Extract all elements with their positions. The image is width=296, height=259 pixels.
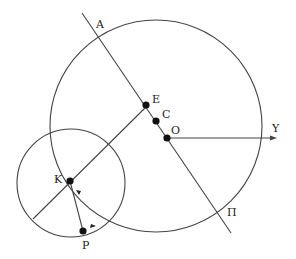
point-c: [152, 117, 159, 124]
label-c: C: [162, 108, 170, 121]
label-a: A: [95, 18, 105, 31]
label-k: K: [54, 173, 63, 186]
arrow-marker-p-icon: [90, 224, 96, 228]
label-p: P: [82, 239, 90, 252]
large-circle: [50, 20, 262, 232]
point-p: [79, 227, 86, 234]
line-k-p: [70, 181, 83, 231]
label-pi: Π: [227, 206, 237, 219]
arrowhead-y-icon: [270, 136, 277, 141]
label-e: E: [152, 93, 160, 106]
label-y: Y: [271, 122, 280, 135]
geometry-diagram: A E C O Y K P Π: [0, 0, 296, 259]
arrow-marker-k-icon: [76, 190, 81, 195]
point-e: [142, 101, 149, 108]
label-o: O: [171, 124, 180, 137]
point-o: [163, 134, 170, 141]
point-k: [66, 177, 73, 184]
